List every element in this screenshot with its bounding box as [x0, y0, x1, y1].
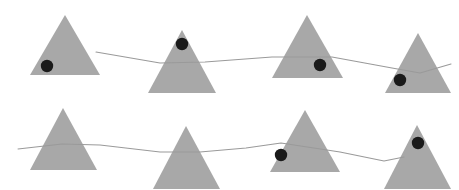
dot-row1-4: [394, 74, 406, 86]
dot-row2-3: [275, 149, 287, 161]
dot-row1-1: [41, 60, 53, 72]
figure-root: Triangles with path overlay: [0, 0, 459, 190]
diagram-canvas: [0, 0, 459, 190]
dot-row2-4: [412, 137, 424, 149]
dot-row1-2: [176, 38, 188, 50]
dot-row1-3: [314, 59, 326, 71]
